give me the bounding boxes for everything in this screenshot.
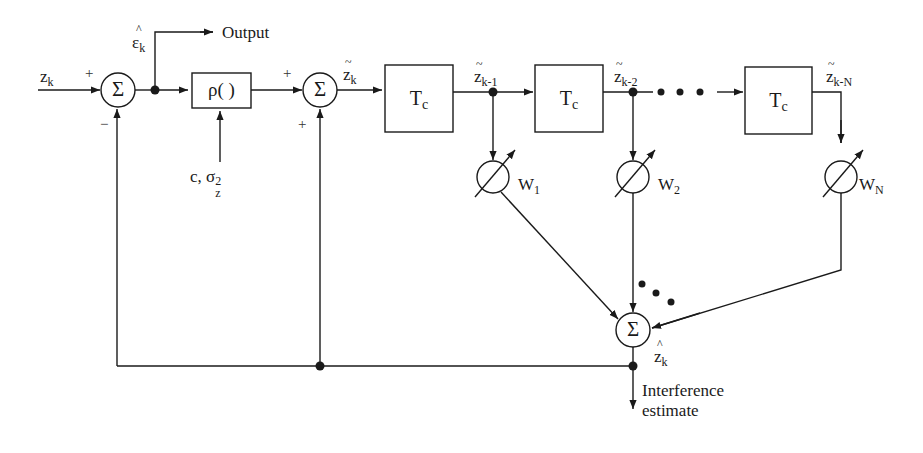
summer-1-glyph: Σ (107, 79, 129, 100)
tilde-accent: ~ (616, 58, 623, 70)
summer-2-plus-sign-bottom: + (298, 117, 306, 132)
tilde-accent: ~ (476, 58, 483, 70)
delay-1-label: Tc (385, 88, 453, 108)
weight-1-label: W1 (518, 176, 540, 193)
error-estimate-label: εk (132, 34, 145, 51)
summer-3-glyph: Σ (622, 319, 644, 340)
delay-n-label: Tc (745, 90, 812, 110)
summer-1-minus-sign: − (100, 117, 108, 132)
junction-dot (316, 362, 325, 371)
nonlinearity-label: ρ( ) (192, 80, 251, 99)
tilde-accent: ~ (828, 58, 835, 70)
junction-dot (151, 86, 160, 95)
tilde-accent: ~ (345, 56, 352, 68)
summer-2-plus-sign-top: + (283, 66, 291, 81)
summer-1-plus-sign: + (85, 66, 93, 81)
junction-dot (629, 362, 638, 371)
interference-estimate-label-line1: Interference (642, 382, 724, 399)
hat-accent: ^ (657, 338, 663, 350)
delay-2-label: Tc (535, 88, 603, 108)
weight-2-label: W2 (658, 176, 680, 193)
summer-2-glyph: Σ (309, 79, 331, 100)
input-label: zk (40, 68, 54, 85)
block-diagram-canvas (0, 0, 923, 453)
hat-accent: ^ (136, 23, 142, 35)
output-label: Output (222, 24, 269, 41)
nonlinearity-params: c, σ2z (190, 168, 224, 185)
weight-n-label: WN (859, 176, 884, 193)
interference-estimate-label-line2: estimate (642, 402, 699, 419)
